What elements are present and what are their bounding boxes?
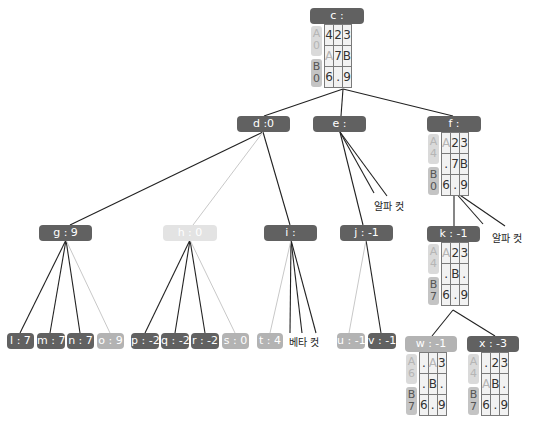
board-grid: .A3 .B. 6.9 xyxy=(419,352,447,416)
badge-b: B7 xyxy=(406,387,417,415)
node-m[interactable]: m : 7 xyxy=(37,333,65,349)
board-grid: A23 .7B 6.9 xyxy=(441,132,469,196)
node-x[interactable]: x : -3 xyxy=(467,336,519,352)
node-v[interactable]: v : -1 xyxy=(368,333,396,349)
node-s[interactable]: s : 0 xyxy=(222,333,249,349)
node-j[interactable]: j : -1 xyxy=(340,225,393,241)
node-g[interactable]: g : 9 xyxy=(39,225,92,241)
node-c[interactable]: c : xyxy=(310,8,364,24)
badge-b: B0 xyxy=(428,167,439,195)
node-d[interactable]: d :0 xyxy=(237,116,290,132)
node-f[interactable]: f : xyxy=(427,116,481,132)
node-h[interactable]: h : 0 xyxy=(163,225,217,241)
alpha-cut-label: 알파 컷 xyxy=(374,198,404,213)
badge-a: A4 xyxy=(428,244,439,274)
board-grid: .23 AB. 6.9 xyxy=(481,352,509,416)
node-e[interactable]: e : xyxy=(313,116,366,132)
badge-a: A0 xyxy=(311,26,322,56)
node-w[interactable]: w : -1 xyxy=(405,336,457,352)
node-o[interactable]: o : 9 xyxy=(97,333,124,349)
node-t[interactable]: t : 4 xyxy=(257,333,283,349)
board-grid: A23 .B. 6.9 xyxy=(441,242,469,306)
badge-a: A6 xyxy=(406,354,417,384)
node-r[interactable]: r : -2 xyxy=(191,333,219,349)
badge-b: B0 xyxy=(311,59,322,87)
node-i[interactable]: i : xyxy=(264,225,317,241)
node-n[interactable]: n : 7 xyxy=(67,333,94,349)
badge-b: B7 xyxy=(468,387,479,415)
board-grid: 423 A7B 6.9 xyxy=(324,24,352,88)
beta-cut-label: 베타 컷 xyxy=(289,334,319,349)
node-l[interactable]: l : 7 xyxy=(7,333,34,349)
badge-b: B7 xyxy=(428,277,439,305)
badge-a: A4 xyxy=(428,134,439,164)
node-u[interactable]: u : -1 xyxy=(337,333,365,349)
badge-a: A4 xyxy=(468,354,479,384)
node-p[interactable]: p : -2 xyxy=(131,333,159,349)
alpha-cut-label: 알파 컷 xyxy=(492,230,522,245)
node-k[interactable]: k : -1 xyxy=(427,226,480,242)
node-q[interactable]: q : -2 xyxy=(161,333,189,349)
tree-edges xyxy=(0,0,533,422)
